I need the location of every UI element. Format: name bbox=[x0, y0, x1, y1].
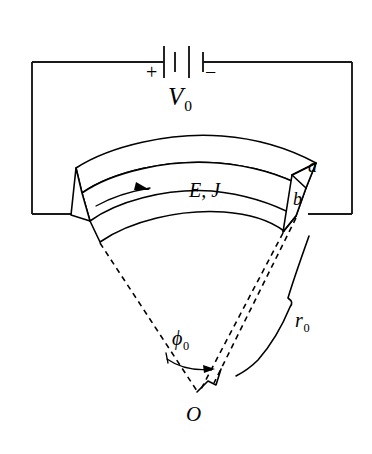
source-voltage-label: V0 bbox=[168, 84, 191, 109]
apex-wedge bbox=[197, 369, 221, 392]
dashed-radius-right-outer bbox=[214, 218, 296, 383]
source-voltage-subscript: 0 bbox=[184, 97, 192, 114]
source-voltage-symbol: V bbox=[168, 83, 183, 110]
dashed-radius-right-inner bbox=[200, 233, 283, 391]
outer-edge-label-a: a bbox=[308, 157, 317, 175]
radius-brace-line bbox=[236, 236, 309, 376]
angle-subscript: 0 bbox=[183, 339, 189, 353]
angle-symbol: ϕ bbox=[172, 327, 182, 349]
inner-edge-label-b: b bbox=[293, 190, 302, 208]
battery-symbol bbox=[164, 46, 203, 78]
angle-label-phi0: ϕ0 bbox=[172, 328, 189, 348]
conductor-inner-arc bbox=[100, 212, 284, 242]
apex-wedge-outline bbox=[197, 369, 221, 392]
conductor-left-lower-edge bbox=[90, 221, 100, 242]
battery-positive-label: + bbox=[146, 62, 157, 82]
radius-indicator-r0 bbox=[236, 236, 309, 376]
radius-label-r0: r0 bbox=[295, 310, 309, 330]
dashed-radius-left bbox=[100, 243, 197, 391]
circuit-diagram-svg bbox=[0, 0, 372, 454]
angle-arc-start-tick bbox=[166, 353, 168, 363]
figure-root: + − V0 E, J a b ϕ0 r0 O bbox=[0, 0, 372, 454]
radius-subscript: 0 bbox=[304, 321, 310, 335]
radius-symbol: r bbox=[295, 309, 303, 331]
battery-negative-label: − bbox=[205, 62, 216, 82]
origin-label: O bbox=[186, 404, 201, 425]
construction-dashed-radii bbox=[100, 218, 296, 391]
field-current-label: E, J bbox=[189, 180, 220, 200]
